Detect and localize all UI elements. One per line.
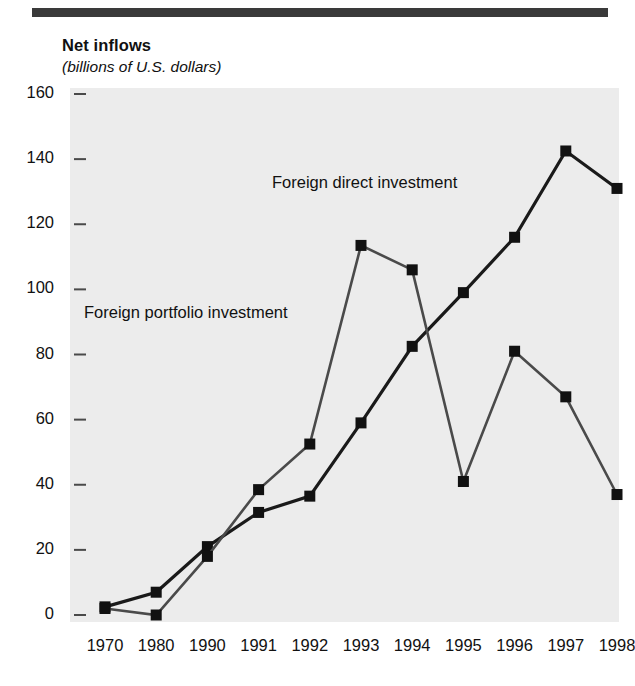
data-series-group bbox=[100, 145, 623, 620]
data-point-marker bbox=[151, 587, 162, 598]
data-point-marker bbox=[304, 439, 315, 450]
data-point-marker bbox=[458, 287, 469, 298]
data-point-marker bbox=[304, 491, 315, 502]
series-label-foreign-direct-investment: Foreign direct investment bbox=[272, 173, 457, 192]
data-point-marker bbox=[509, 232, 520, 243]
series-line bbox=[105, 245, 617, 615]
data-point-marker bbox=[202, 551, 213, 562]
data-point-marker bbox=[612, 489, 623, 500]
series-line bbox=[105, 151, 617, 607]
y-axis-tick-marks bbox=[74, 94, 86, 615]
data-point-marker bbox=[407, 264, 418, 275]
series-label-foreign-portfolio-investment: Foreign portfolio investment bbox=[84, 303, 288, 322]
data-point-marker bbox=[356, 240, 367, 251]
data-point-marker bbox=[356, 417, 367, 428]
data-point-marker bbox=[560, 145, 571, 156]
data-point-marker bbox=[560, 391, 571, 402]
data-point-marker bbox=[253, 484, 264, 495]
data-point-marker bbox=[151, 610, 162, 621]
data-point-marker bbox=[100, 603, 111, 614]
data-point-marker bbox=[458, 476, 469, 487]
data-point-marker bbox=[509, 346, 520, 357]
data-point-marker bbox=[407, 341, 418, 352]
data-point-marker bbox=[612, 183, 623, 194]
data-point-marker bbox=[253, 507, 264, 518]
